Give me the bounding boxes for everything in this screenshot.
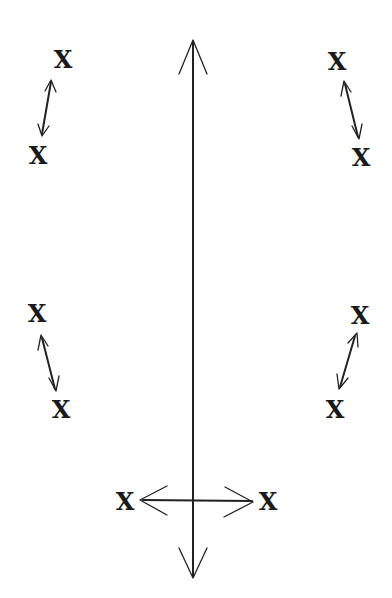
x-mark-top-left-lower: X <box>29 141 48 170</box>
x-mark-bottom-left: X <box>116 487 135 516</box>
x-mark-mid-left-lower: X <box>52 395 71 424</box>
movement-diagram: X X X X X X X X X X <box>0 0 392 598</box>
mid-left-pair-arrow <box>38 335 59 391</box>
top-left-pair-arrow <box>38 80 56 136</box>
x-mark-top-left-upper: X <box>54 45 73 74</box>
x-mark-bottom-right: X <box>259 487 278 516</box>
horizontal-double-arrow <box>140 486 253 517</box>
right-arrowhead-icon <box>224 487 253 517</box>
x-mark-mid-right-lower: X <box>326 395 345 424</box>
pair-arrow-line <box>42 82 51 134</box>
horizontal-line <box>143 500 252 501</box>
vertical-axis-arrow <box>179 40 207 578</box>
mid-right-pair-arrow <box>337 333 358 389</box>
x-mark-top-right-upper: X <box>328 47 347 76</box>
x-mark-mid-right-upper: X <box>351 301 370 330</box>
x-mark-mid-left-upper: X <box>28 299 47 328</box>
x-mark-top-right-lower: X <box>352 143 371 172</box>
top-right-pair-arrow <box>341 81 362 139</box>
